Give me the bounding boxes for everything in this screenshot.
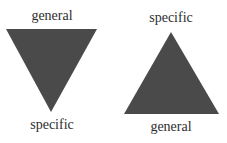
- upright-triangle-icon: [124, 32, 219, 114]
- inverted-triangle-icon: [6, 29, 97, 112]
- right-bottom-label: general: [150, 120, 191, 134]
- right-top-label: specific: [149, 11, 193, 25]
- left-top-label: general: [31, 9, 72, 23]
- left-bottom-label: specific: [30, 118, 74, 132]
